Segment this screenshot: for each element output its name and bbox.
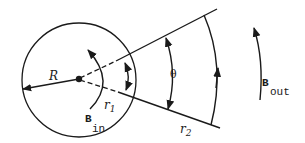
label-b-out-main: B	[262, 77, 269, 89]
wedge-line-upper	[116, 9, 217, 61]
wedge-line-lower	[118, 92, 220, 128]
label-b-in-sub: in	[92, 123, 105, 135]
label-b-in-main: B	[85, 113, 92, 125]
label-r1: r1	[104, 98, 115, 114]
r2-arc	[204, 15, 217, 125]
b-in-field-arc	[88, 50, 103, 109]
dashed-line-lower	[80, 80, 118, 92]
label-r2: r2	[180, 122, 192, 138]
b-out-field-arc	[254, 28, 261, 100]
label-theta: θ	[170, 68, 177, 81]
diagram-canvas: R r1 B in θ r2 B out	[0, 0, 305, 143]
label-b-out-sub: out	[270, 86, 290, 98]
label-r-capital: R	[48, 69, 58, 83]
inner-angle-arrow	[125, 63, 128, 90]
